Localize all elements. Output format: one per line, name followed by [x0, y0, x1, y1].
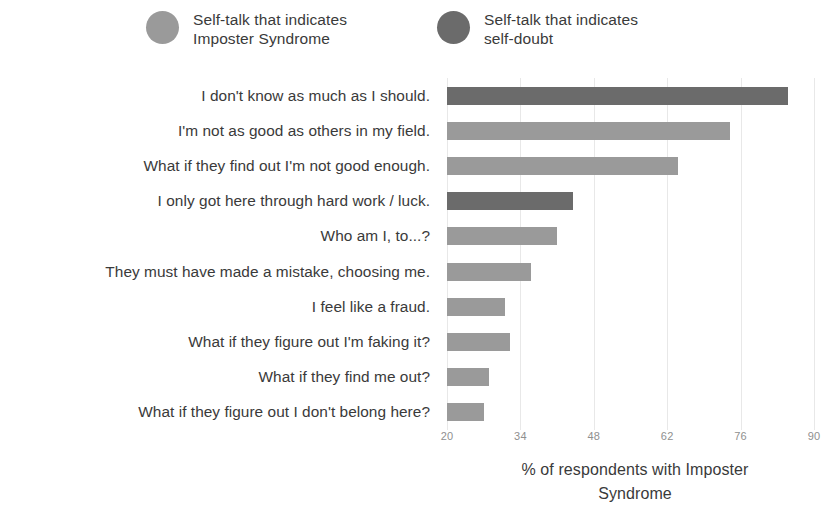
x-tick-label: 20 [441, 430, 454, 442]
category-label: What if they figure out I don't belong h… [138, 395, 430, 430]
category-label: What if they find out I'm not good enoug… [143, 148, 430, 183]
bar[interactable] [447, 333, 510, 351]
category-label: What if they find me out? [259, 360, 431, 395]
legend-swatch-imposter-syndrome [146, 11, 179, 44]
category-label: What if they figure out I'm faking it? [188, 324, 430, 359]
bar[interactable] [447, 87, 788, 105]
x-tick-label: 90 [808, 430, 821, 442]
chart-page: Self-talk that indicates Imposter Syndro… [0, 0, 831, 518]
category-label: They must have made a mistake, choosing … [105, 254, 430, 289]
gridline-90 [814, 78, 815, 430]
x-tick-label: 62 [661, 430, 674, 442]
category-axis-labels: I don't know as much as I should.I'm not… [0, 78, 440, 430]
bar[interactable] [447, 122, 730, 140]
bar-row[interactable] [447, 324, 510, 359]
bar-row[interactable] [447, 395, 484, 430]
axis-title: % of respondents with ImposterSyndrome [440, 458, 830, 506]
bars-container [447, 78, 814, 430]
category-label: I only got here through hard work / luck… [158, 184, 430, 219]
x-tick-label: 76 [734, 430, 747, 442]
bar-row[interactable] [447, 148, 678, 183]
legend-item-imposter-syndrome: Self-talk that indicates Imposter Syndro… [146, 10, 347, 48]
bar[interactable] [447, 192, 573, 210]
category-label: I'm not as good as others in my field. [178, 113, 430, 148]
chart-legend: Self-talk that indicates Imposter Syndro… [0, 0, 831, 72]
bar[interactable] [447, 263, 531, 281]
category-label: Who am I, to...? [321, 219, 430, 254]
gridline-76 [741, 78, 742, 430]
legend-label-self-doubt: Self-talk that indicates self-doubt [484, 10, 638, 48]
bar[interactable] [447, 403, 484, 421]
bar[interactable] [447, 157, 678, 175]
bar-row[interactable] [447, 219, 557, 254]
bar[interactable] [447, 368, 489, 386]
bar[interactable] [447, 227, 557, 245]
legend-label-imposter-syndrome: Self-talk that indicates Imposter Syndro… [193, 10, 347, 48]
value-axis: 203448627690 [447, 430, 814, 452]
bar-row[interactable] [447, 113, 730, 148]
category-label: I feel like a fraud. [312, 289, 430, 324]
legend-swatch-self-doubt [437, 11, 470, 44]
category-label: I don't know as much as I should. [201, 78, 430, 113]
legend-item-self-doubt: Self-talk that indicates self-doubt [437, 10, 638, 48]
bar-row[interactable] [447, 78, 788, 113]
bar-row[interactable] [447, 184, 573, 219]
bar-row[interactable] [447, 360, 489, 395]
x-tick-label: 34 [514, 430, 527, 442]
bar-row[interactable] [447, 289, 505, 324]
plot-area: I don't know as much as I should.I'm not… [0, 78, 831, 433]
bar[interactable] [447, 298, 505, 316]
x-tick-label: 48 [587, 430, 600, 442]
bar-row[interactable] [447, 254, 531, 289]
